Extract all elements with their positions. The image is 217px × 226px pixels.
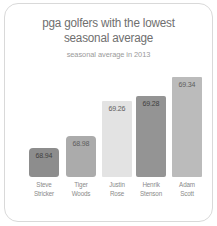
bar-value-label: 68.98 — [67, 140, 95, 148]
bar-value-label: 68.94 — [30, 152, 58, 160]
title-block: pga golfers with the lowest seasonal ave… — [5, 16, 212, 60]
bar[interactable]: 68.98 — [66, 136, 96, 177]
bar-value-label: 69.28 — [137, 100, 165, 108]
category-label: Steve Stricker — [23, 180, 65, 198]
bar[interactable]: 69.26 — [102, 101, 132, 177]
category-label-line: Adam — [166, 180, 208, 189]
chart-subtitle: seasonal average in 2013 — [10, 50, 207, 60]
category-label: Adam Scott — [166, 180, 208, 198]
bar-value-label: 69.34 — [173, 81, 201, 89]
chart-title-line-1: pga golfers with the lowest — [10, 16, 207, 31]
chart-title-line-2: seasonal average — [10, 31, 207, 46]
category-label-line: Scott — [166, 189, 208, 198]
bar-chart-plot-area: 68.94 68.98 69.26 69.28 69.34 — [22, 74, 202, 177]
bar[interactable]: 69.28 — [136, 96, 166, 177]
category-axis: Steve Stricker Tiger Woods Justin Rose H… — [22, 180, 202, 206]
bar-value-label: 69.26 — [103, 105, 131, 113]
category-label-line: Steve — [23, 180, 65, 189]
bar[interactable]: 69.34 — [172, 77, 202, 177]
chart-card: pga golfers with the lowest seasonal ave… — [4, 3, 213, 222]
bar[interactable]: 68.94 — [29, 148, 59, 177]
category-label-line: Stricker — [23, 189, 65, 198]
